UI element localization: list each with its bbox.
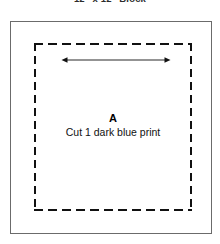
arrowhead-right-icon	[165, 57, 171, 63]
width-dimension-arrow	[60, 53, 172, 67]
cutting-line-bottom-edge	[34, 209, 192, 211]
piece-label: A	[34, 112, 192, 125]
cutting-line-top-edge	[34, 43, 192, 45]
diagram-title: 12" x 12" Block	[0, 0, 220, 4]
width-dimension-arrow-glyph	[60, 53, 172, 67]
arrowhead-left-icon	[62, 57, 68, 63]
diagram-canvas: 12" x 12" Block A Cut 1 dark blue print	[0, 0, 220, 244]
cut-instruction-text: Cut 1 dark blue print	[24, 126, 202, 139]
